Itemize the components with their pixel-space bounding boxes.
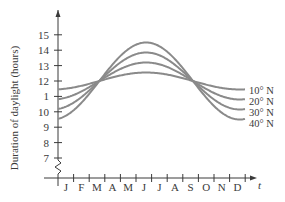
y-tick-label: 13 bbox=[38, 60, 50, 72]
legend-label: 10° N bbox=[249, 85, 274, 96]
legend-label: 20° N bbox=[249, 96, 274, 107]
curve-10n bbox=[58, 73, 245, 90]
y-axis-title: Duration of daylight (hours) bbox=[8, 45, 21, 170]
x-axis-title: t bbox=[258, 179, 262, 191]
y-tick-label: 10 bbox=[38, 106, 50, 118]
month-label: A bbox=[109, 181, 117, 193]
month-label: D bbox=[233, 181, 241, 193]
y-axis: 78910112131415 bbox=[38, 10, 62, 186]
month-label: O bbox=[202, 181, 210, 193]
y-tick-label: 1 bbox=[44, 90, 50, 102]
month-label: S bbox=[188, 181, 194, 193]
month-label: J bbox=[142, 181, 147, 193]
y-axis-arrow-icon bbox=[56, 10, 61, 17]
month-label: F bbox=[78, 181, 84, 193]
y-tick-label: 12 bbox=[38, 75, 49, 87]
legend-label: 40° N bbox=[249, 118, 274, 129]
legend-label: 30° N bbox=[249, 107, 274, 118]
month-label: J bbox=[157, 181, 162, 193]
y-tick-label: 8 bbox=[44, 137, 50, 149]
y-tick-label: 9 bbox=[44, 121, 50, 133]
y-tick-label: 15 bbox=[38, 29, 50, 41]
y-tick-label: 14 bbox=[38, 44, 50, 56]
x-axis-arrow-icon bbox=[250, 176, 257, 181]
curve-30n bbox=[58, 53, 245, 110]
curve-40n bbox=[58, 43, 245, 120]
axis-break-icon bbox=[55, 160, 61, 186]
month-label: M bbox=[123, 181, 133, 193]
daylight-chart: 78910112131415 JFMAMJJASOND 10° N20° N30… bbox=[0, 0, 285, 202]
curves bbox=[58, 43, 245, 120]
legend: 10° N20° N30° N40° N bbox=[249, 85, 274, 129]
month-label: M bbox=[92, 181, 102, 193]
y-tick-label: 7 bbox=[44, 152, 50, 164]
month-label: A bbox=[171, 181, 179, 193]
month-label: J bbox=[64, 181, 69, 193]
month-label: N bbox=[218, 181, 226, 193]
x-axis: JFMAMJJASOND bbox=[44, 174, 257, 193]
